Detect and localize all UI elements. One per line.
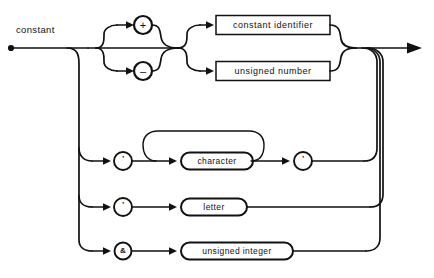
syntax-diagram-canvas: constant + – constant identifier unsigne…: [0, 0, 434, 278]
letter-prefix-arrow-icon: [103, 203, 111, 211]
value-number-in: [178, 48, 200, 71]
integer-prefix-glyph: &: [114, 244, 132, 258]
branch-drop-integer: [79, 196, 92, 251]
plus-sign-glyph: +: [134, 17, 152, 33]
letter-label: letter: [181, 199, 247, 215]
value-identifier-in: [178, 25, 200, 48]
identifier-arrow-icon: [206, 21, 214, 29]
number-arrow-icon: [206, 67, 214, 75]
branch-drop-character: [67, 48, 92, 161]
unsigned-number-label: unsigned number: [216, 62, 330, 80]
unsigned-integer-label: unsigned integer: [181, 243, 293, 259]
plus-arrow-icon: [126, 21, 134, 29]
number-merge-rail: [330, 48, 356, 71]
sign-minus-in: [96, 48, 117, 71]
letter-arrow-icon: [169, 203, 177, 211]
character-arrow-icon: [169, 157, 177, 165]
character-return-rail: [362, 48, 377, 161]
integer-arrow-icon: [169, 247, 177, 255]
quote-open-glyph: ’: [114, 152, 132, 166]
letter-prefix-glyph: ’: [114, 198, 132, 212]
integer-prefix-arrow-icon: [103, 247, 111, 255]
identifier-merge-rail: [330, 25, 356, 48]
exit-arrow-icon: [407, 43, 422, 54]
constant-identifier-label: constant identifier: [216, 16, 330, 34]
character-label: character: [181, 153, 253, 169]
quote-close-arrow-icon: [282, 157, 290, 165]
sign-plus-in: [96, 25, 117, 48]
minus-arrow-icon: [126, 67, 134, 75]
minus-sign-glyph: –: [134, 63, 152, 79]
character-quote-arrow-icon: [103, 157, 111, 165]
integer-return-rail: [366, 48, 380, 251]
quote-close-glyph: ’: [294, 152, 312, 166]
railroad-diagram-svg: [0, 0, 434, 278]
diagram-entry-label: constant: [16, 24, 55, 35]
minus-merge-rail: [152, 48, 178, 71]
plus-merge-rail: [152, 25, 178, 48]
